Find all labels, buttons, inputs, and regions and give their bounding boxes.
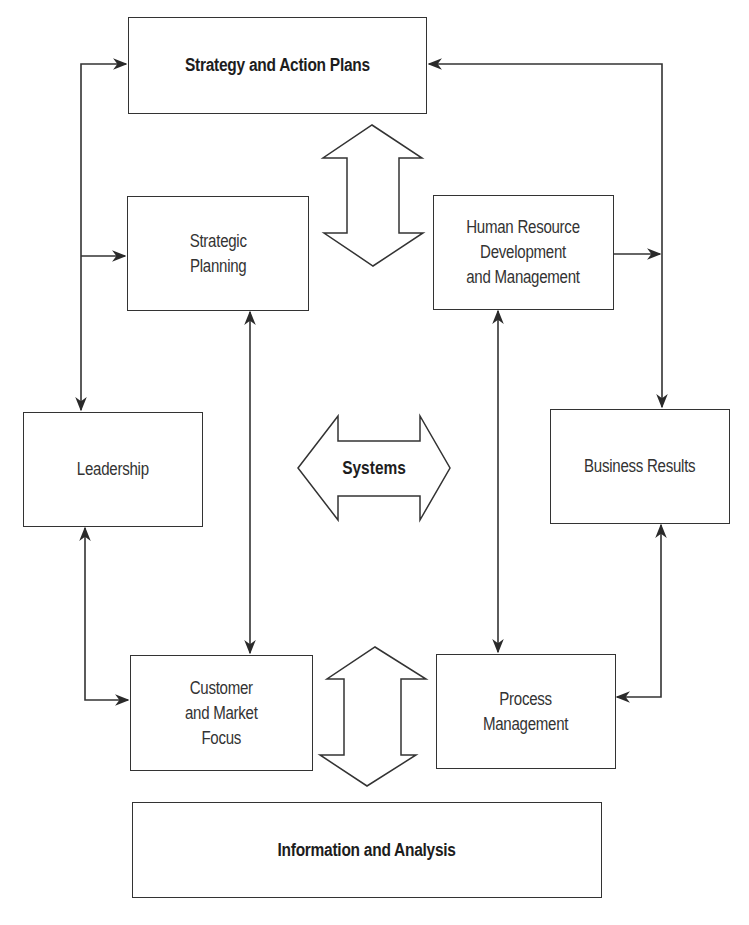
customer-market-focus-box: Customer and Market Focus [130,655,313,771]
human-resource-box: Human Resource Development and Managemen… [433,195,614,310]
strategic-planning-box: Strategic Planning [127,196,309,311]
strategic-planning-label: Strategic Planning [189,229,246,279]
systems-label: Systems [342,458,406,479]
process-management-box: Process Management [436,654,616,769]
information-analysis-label: Information and Analysis [278,838,456,863]
strategy-action-plans-box: Strategy and Action Plans [128,17,427,114]
business-results-box: Business Results [550,409,730,524]
leadership-strategy-connector [81,64,126,410]
process-management-label: Process Management [483,687,568,737]
leadership-label: Leadership [77,457,149,482]
information-analysis-box: Information and Analysis [132,802,602,898]
diagram-canvas: Strategy and Action Plans Strategic Plan… [0,0,749,925]
customer-market-focus-label: Customer and Market Focus [185,676,258,751]
leadership-customer-connector [85,528,128,700]
top-double-arrow-icon [323,125,423,266]
human-resource-label: Human Resource Development and Managemen… [467,215,581,290]
bottom-double-arrow-icon [320,647,426,786]
systems-label-container: Systems [298,441,450,496]
results-process-connector [617,525,661,697]
leadership-box: Leadership [23,412,203,527]
business-results-label: Business Results [584,454,695,479]
strategy-action-plans-label: Strategy and Action Plans [185,53,370,78]
